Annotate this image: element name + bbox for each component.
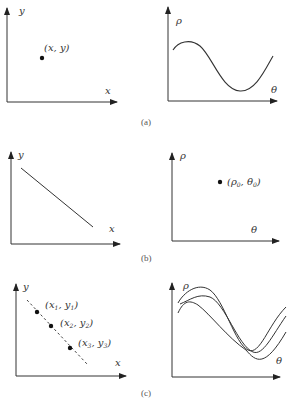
hough-transform-figure: y x (x, y) ρ θ (a) y x ρ θ (ρ0, θ0) (b) … (0, 0, 294, 409)
point-2 (49, 324, 53, 328)
point-2-label: (x2, y2) (60, 317, 93, 329)
theta-axis-label: θ (276, 355, 282, 366)
panel-c-xy-space: y x (x1, y1) (x2, y2) (x3, y3) (16, 281, 126, 376)
panel-b-xy-space: y x (11, 149, 120, 244)
point-3-label: (x3, y3) (78, 337, 111, 349)
sinusoid-curve-3 (178, 302, 286, 359)
point-label: (x, y) (44, 42, 70, 53)
y-axis-label: y (18, 5, 25, 16)
point-rho0-theta0 (218, 180, 222, 184)
y-axis-label: y (22, 281, 29, 292)
caption-a: (a) (141, 117, 151, 127)
panel-a-xy-space: y x (x, y) (7, 5, 117, 102)
x-axis-label: x (105, 85, 111, 96)
theta-axis-label: θ (251, 224, 257, 235)
point-3 (68, 346, 72, 350)
caption-b: (b) (141, 253, 152, 263)
point-1-label: (x1, y1) (45, 299, 78, 311)
y-axis-label: y (17, 149, 24, 160)
point-xy (40, 56, 44, 60)
straight-line (21, 168, 93, 227)
sinusoid-curve (173, 42, 273, 91)
point-label: (ρ0, θ0) (227, 176, 261, 188)
point-1 (35, 310, 39, 314)
panel-a-rho-theta-space: ρ θ (168, 7, 277, 101)
x-axis-label: x (109, 223, 115, 234)
panel-b-rho-theta-space: ρ θ (ρ0, θ0) (172, 150, 279, 241)
x-axis-label: x (115, 357, 121, 368)
panel-c-rho-theta-space: ρ θ (172, 280, 286, 377)
theta-axis-label: θ (271, 84, 277, 95)
caption-c: (c) (141, 388, 151, 398)
rho-axis-label: ρ (175, 15, 182, 26)
rho-axis-label: ρ (179, 150, 186, 161)
rho-axis-label: ρ (182, 280, 189, 291)
